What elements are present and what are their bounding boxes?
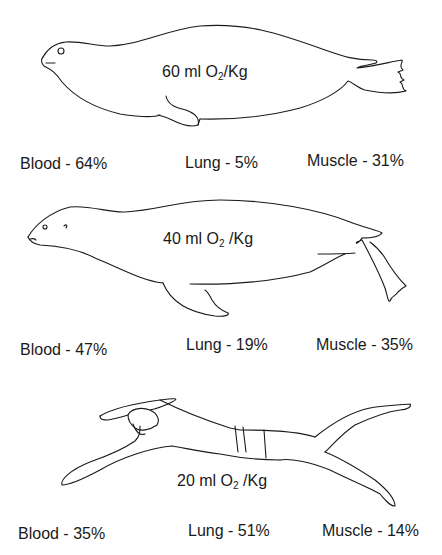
oxygen-store-label: 60 ml O2/Kg — [162, 63, 248, 82]
muscle-percent-label: Muscle - 14% — [322, 522, 419, 540]
muscle-percent-label: Muscle - 31% — [307, 152, 404, 170]
oxygen-value: 20 ml O — [177, 472, 233, 489]
blood-percent-label: Blood - 64% — [20, 155, 107, 173]
sea-lion-outline — [28, 200, 406, 316]
oxygen-unit: /Kg — [225, 230, 253, 247]
lung-percent-label: Lung - 19% — [186, 336, 268, 354]
oxygen-unit: /Kg — [239, 472, 267, 489]
oxygen-value: 60 ml O — [162, 63, 218, 80]
blood-percent-label: Blood - 35% — [18, 525, 105, 543]
oxygen-store-label: 20 ml O2 /Kg — [177, 472, 267, 491]
oxygen-store-label: 40 ml O2 /Kg — [163, 230, 253, 249]
muscle-percent-label: Muscle - 35% — [316, 336, 413, 354]
oxygen-value: 40 ml O — [163, 230, 219, 247]
oxygen-unit: /Kg — [224, 63, 248, 80]
lung-percent-label: Lung - 51% — [188, 522, 270, 540]
lung-percent-label: Lung - 5% — [185, 154, 258, 172]
blood-percent-label: Blood - 47% — [20, 341, 107, 359]
